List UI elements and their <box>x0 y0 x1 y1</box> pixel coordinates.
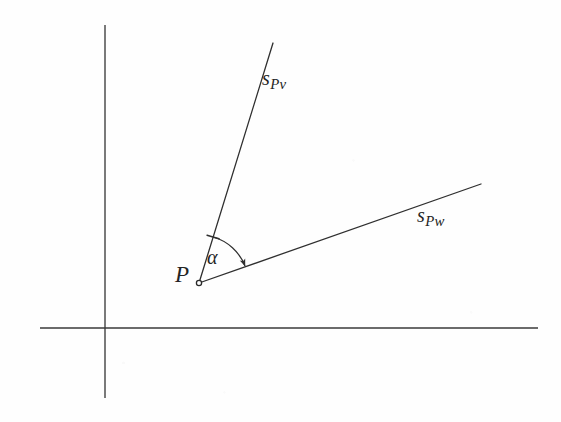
ray-spw-label-subscript: Pw <box>425 213 444 229</box>
ray-spw <box>199 184 481 283</box>
angle-label: α <box>207 247 218 267</box>
ray-spw-label-base: s <box>417 204 425 226</box>
ray-spw-label: sPw <box>417 205 445 229</box>
ray-spv-label: sPv <box>262 68 286 92</box>
ray-spv-label-subscript: Pv <box>270 76 286 92</box>
ray-spv-label-base: s <box>262 67 270 89</box>
vertex-label: P <box>175 263 189 286</box>
figure-canvas <box>0 0 561 422</box>
vertex-point-marker <box>196 280 201 285</box>
geometry-figure: sPv sPw P α <box>0 0 561 422</box>
